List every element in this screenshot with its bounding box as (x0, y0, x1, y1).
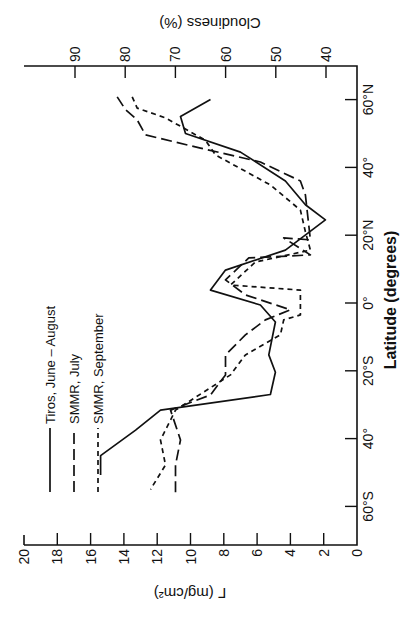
gamma-tick-label: 6 (249, 549, 265, 557)
gamma-tick-label: 2 (316, 549, 332, 557)
gamma-tick-label: 18 (49, 549, 65, 565)
cloudiness-tick-label: 90 (67, 46, 83, 62)
axis-tick-labels: 0246810121416182040506070809060°N40°20°N… (16, 46, 376, 564)
latitude-tick-label: 20°S (360, 356, 376, 387)
cloudiness-tick-label: 60 (218, 46, 234, 62)
latitude-tick-label: 60°S (360, 491, 376, 522)
series-line-tiros-june-august (101, 100, 326, 475)
gamma-tick-label: 20 (16, 549, 32, 565)
legend-label: SMMR, September (91, 313, 106, 424)
x-axis-title: Latitude (degrees) (382, 231, 399, 370)
data-series (101, 97, 326, 495)
gamma-tick-label: 12 (149, 549, 165, 565)
gamma-tick-label: 16 (83, 549, 99, 565)
legend-label: Tiros, June – August (43, 306, 58, 424)
gamma-tick-label: 8 (216, 549, 232, 557)
cloudiness-tick-label: 40 (318, 46, 334, 62)
rotated-line-chart: 0246810121416182040506070809060°N40°20°N… (0, 0, 411, 618)
latitude-tick-label: 40° (360, 428, 376, 449)
y2-axis-title: Cloudiness (%) (159, 15, 261, 32)
series-line-smmr-july (117, 97, 310, 495)
cloudiness-tick-label: 80 (117, 46, 133, 62)
gamma-tick-label: 4 (282, 549, 298, 557)
y-axis-title: Γ (mg/cm²) (154, 585, 226, 602)
cloudiness-tick-label: 70 (167, 46, 183, 62)
cloudiness-tick-label: 50 (268, 46, 284, 62)
legend: Tiros, June – AugustSMMR, JulySMMR, Sept… (43, 306, 106, 492)
gamma-tick-label: 0 (349, 549, 365, 557)
gamma-tick-label: 14 (116, 549, 132, 565)
latitude-tick-label: 20°N (360, 220, 376, 251)
latitude-tick-label: 0° (360, 296, 376, 309)
latitude-tick-label: 40° (360, 157, 376, 178)
gamma-tick-label: 10 (183, 549, 199, 565)
axis-ticks (57, 66, 357, 545)
latitude-tick-label: 60°N (360, 84, 376, 115)
legend-label: SMMR, July (67, 353, 82, 424)
